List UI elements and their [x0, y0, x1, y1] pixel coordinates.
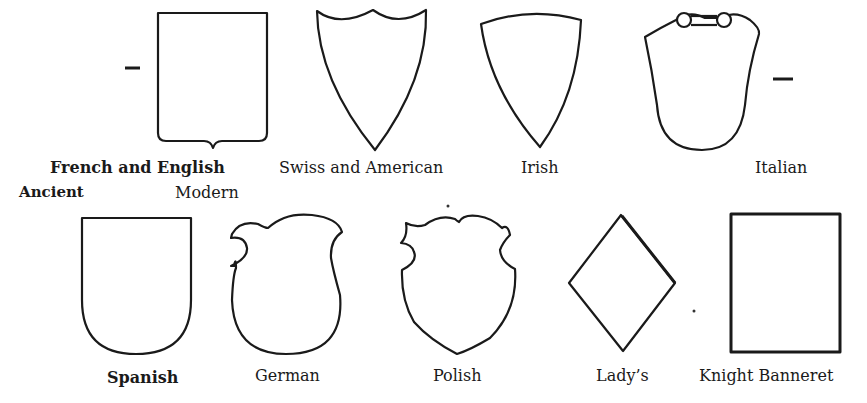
knight-banneret-shield — [731, 214, 840, 352]
label-polish: Polish — [433, 368, 482, 384]
label-ancient: Ancient — [19, 185, 84, 200]
shield-shapes-figure: French and English Ancient Modern Swiss … — [0, 0, 867, 403]
shields-illustration — [0, 0, 867, 403]
ink-speck — [447, 205, 450, 208]
ladys-lozenge — [569, 215, 675, 351]
label-swiss-american: Swiss and American — [279, 160, 443, 176]
irish-shield — [481, 14, 581, 147]
label-german: German — [255, 368, 320, 384]
ink-speck — [693, 310, 696, 313]
label-knight-banneret: Knight Banneret — [699, 368, 833, 384]
italian-shield — [645, 13, 759, 150]
label-irish: Irish — [521, 160, 559, 176]
polish-shield — [401, 216, 515, 354]
label-ladys: Lady’s — [596, 368, 649, 384]
label-modern: Modern — [175, 185, 239, 201]
label-spanish: Spanish — [107, 370, 178, 386]
label-italian: Italian — [755, 160, 807, 176]
spanish-shield — [82, 218, 191, 354]
label-french-english: French and English — [50, 160, 225, 176]
swiss-american-shield — [317, 10, 426, 150]
german-shield — [231, 215, 342, 354]
french-english-shield — [158, 13, 267, 148]
